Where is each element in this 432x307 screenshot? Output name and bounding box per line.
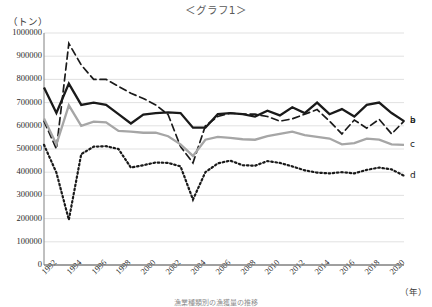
series-line-d xyxy=(44,145,404,220)
series-label-c: c xyxy=(410,140,415,149)
chart-caption: 漁業種類別の漁獲量の推移 xyxy=(0,297,432,307)
series-label-d: d xyxy=(410,171,416,180)
series-label-b: b xyxy=(410,116,416,125)
